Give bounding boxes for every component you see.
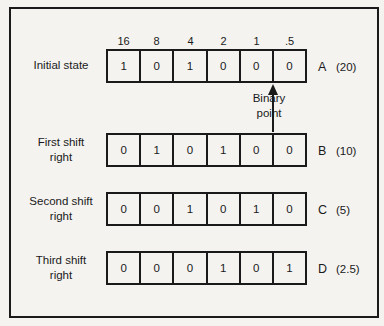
bit-cell: 0 [241, 51, 274, 81]
row-label-third-shift: Third shift right [16, 253, 106, 283]
bit-cell: 0 [141, 194, 174, 224]
bit-cell: 1 [108, 51, 141, 81]
bit-cell: 1 [141, 135, 174, 165]
bit-cell: 0 [108, 194, 141, 224]
register-d: 0 0 0 1 0 1 [106, 251, 307, 285]
bit-cell: 0 [141, 51, 174, 81]
register-value-a: (20) [336, 60, 356, 74]
row-label-line1: First shift [16, 135, 106, 150]
bit-cell: 0 [241, 253, 274, 283]
register-id-d: D [318, 262, 327, 276]
bit-cell: 1 [174, 51, 207, 81]
row-label-line1: Third shift [16, 253, 106, 268]
weight-2: 2 [207, 35, 240, 47]
bit-cell: 0 [108, 253, 141, 283]
register-a: 1 0 1 0 0 0 [106, 49, 307, 83]
row-label-line1: Initial state [16, 58, 106, 73]
weight-half: .5 [273, 35, 306, 47]
register-id-b: B [318, 144, 326, 158]
bit-cell: 1 [174, 194, 207, 224]
weight-4: 4 [174, 35, 207, 47]
bit-cell: 0 [208, 51, 241, 81]
register-value-c: (5) [336, 203, 350, 217]
row-label-second-shift: Second shift right [16, 194, 106, 224]
bit-cell: 0 [141, 253, 174, 283]
row-label-line2: right [16, 150, 106, 165]
bit-cell: 1 [208, 253, 241, 283]
bit-cell: 1 [241, 194, 274, 224]
row-label-line2: right [16, 209, 106, 224]
row-label-line2: right [16, 268, 106, 283]
binary-point-arrow-icon [268, 84, 278, 132]
register-b: 0 1 0 1 0 0 [106, 133, 307, 167]
bit-cell: 0 [274, 135, 305, 165]
bit-cell: 0 [174, 253, 207, 283]
register-id-c: C [318, 203, 327, 217]
bit-cell: 0 [108, 135, 141, 165]
weight-8: 8 [140, 35, 173, 47]
row-label-first-shift: First shift right [16, 135, 106, 165]
weight-1: 1 [240, 35, 273, 47]
register-c: 0 0 1 0 1 0 [106, 192, 307, 226]
row-label-line1: Second shift [16, 194, 106, 209]
bit-cell: 1 [274, 253, 305, 283]
register-value-d: (2.5) [336, 262, 360, 276]
bit-cell: 1 [208, 135, 241, 165]
bit-cell: 0 [274, 51, 305, 81]
weight-16: 16 [107, 35, 140, 47]
bit-cell: 0 [174, 135, 207, 165]
register-value-b: (10) [336, 144, 356, 158]
bit-cell: 0 [274, 194, 305, 224]
register-id-a: A [318, 60, 326, 74]
bit-cell: 0 [241, 135, 274, 165]
bit-cell: 0 [208, 194, 241, 224]
row-label-initial-state: Initial state [16, 58, 106, 73]
